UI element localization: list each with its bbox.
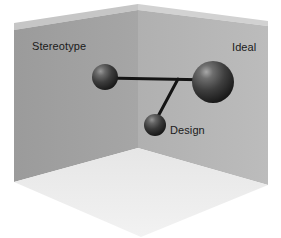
scene-svg: Stereotype Ideal Design	[0, 0, 281, 238]
label-stereotype: Stereotype	[32, 40, 86, 52]
design-sphere[interactable]	[144, 114, 166, 136]
node-design[interactable]	[144, 114, 166, 136]
room-group	[14, 4, 268, 237]
stereotype-sphere[interactable]	[92, 64, 118, 90]
node-stereotype[interactable]	[92, 64, 118, 90]
label-ideal: Ideal	[232, 41, 256, 53]
diagram-canvas: Stereotype Ideal Design	[0, 0, 281, 238]
ideal-sphere[interactable]	[192, 61, 234, 103]
label-design: Design	[170, 124, 205, 136]
node-ideal[interactable]	[192, 61, 234, 103]
